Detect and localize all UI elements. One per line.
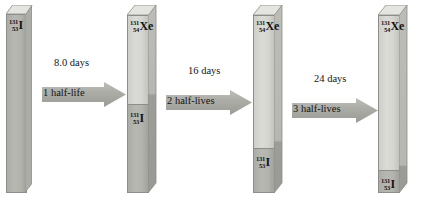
element-symbol: I: [265, 156, 269, 168]
atomic-number: 54: [381, 26, 390, 33]
column-4-iodine-label: 131 53 I: [381, 175, 395, 191]
column-4-xenon-numbers: 131 54: [381, 19, 390, 33]
column-1-iodine-label: 131 53 I: [9, 16, 23, 32]
column-4-xenon-label: 131 54 Xe: [381, 17, 404, 33]
arrow-2-halflife-label: 2 half-lives: [167, 96, 215, 107]
column-2-iodine-numbers: 131 53: [130, 111, 139, 125]
column-1: 131 53 I: [6, 5, 33, 193]
mass-number: 131: [381, 177, 390, 184]
atomic-number: 53: [9, 25, 18, 32]
column-4-front-face: [378, 15, 400, 193]
arrow-3-halflife-label: 3 half-lives: [293, 104, 341, 115]
column-4-top-outline: [378, 5, 408, 15]
column-2-xenon-numbers: 131 54: [130, 19, 139, 33]
column-3-iodine-label: 131 53 I: [256, 153, 270, 169]
column-3-xenon-label: 131 54 Xe: [256, 17, 279, 33]
column-2-front-face: [127, 15, 149, 193]
column-1-side-face: [25, 5, 33, 193]
halflife-decay-diagram: 131 53 I 131: [0, 0, 421, 203]
atomic-number: 54: [256, 26, 265, 33]
arrow-2: 16 days 2 half-lives: [166, 66, 252, 116]
atomic-number: 53: [381, 184, 390, 191]
column-3-xenon-numbers: 131 54: [256, 19, 265, 33]
atomic-number: 54: [130, 26, 139, 33]
mass-number: 131: [130, 19, 139, 26]
column-1-iodine-segment: [7, 15, 26, 192]
element-symbol: I: [390, 178, 394, 190]
element-symbol: I: [18, 19, 22, 31]
mass-number: 131: [256, 155, 265, 162]
arrow-1: 8.0 days 1 half-life: [42, 58, 126, 108]
arrow-3-time-label: 24 days: [314, 74, 346, 85]
column-3-xenon-segment: [254, 16, 274, 148]
mass-number: 131: [9, 18, 18, 25]
column-4-xenon-segment: [379, 16, 399, 170]
column-2-iodine-label: 131 53 I: [130, 109, 144, 125]
arrow-3: 24 days 3 half-lives: [292, 74, 378, 124]
atomic-number: 53: [256, 162, 265, 169]
column-3: 131 54 Xe 131 53 I: [253, 5, 283, 193]
column-2-xenon-label: 131 54 Xe: [130, 17, 153, 33]
atomic-number: 53: [130, 118, 139, 125]
mass-number: 131: [256, 19, 265, 26]
column-3-top-outline: [253, 5, 283, 15]
column-2-top-outline: [127, 5, 157, 15]
element-symbol: Xe: [390, 20, 404, 32]
column-1-front-face: [6, 14, 27, 193]
column-4: 131 54 Xe 131 53 I: [378, 5, 408, 193]
arrow-1-time-label: 8.0 days: [54, 58, 89, 69]
column-2: 131 54 Xe 131 53 I: [127, 5, 157, 193]
column-4-iodine-numbers: 131 53: [381, 177, 390, 191]
mass-number: 131: [381, 19, 390, 26]
column-1-iodine-numbers: 131 53: [9, 18, 18, 32]
arrow-2-time-label: 16 days: [188, 66, 220, 77]
element-symbol: I: [139, 112, 143, 124]
element-symbol: Xe: [265, 20, 279, 32]
mass-number: 131: [130, 111, 139, 118]
element-symbol: Xe: [139, 20, 153, 32]
column-1-top-outline: [6, 5, 33, 14]
arrow-1-halflife-label: 1 half-life: [43, 88, 85, 99]
column-3-iodine-numbers: 131 53: [256, 155, 265, 169]
